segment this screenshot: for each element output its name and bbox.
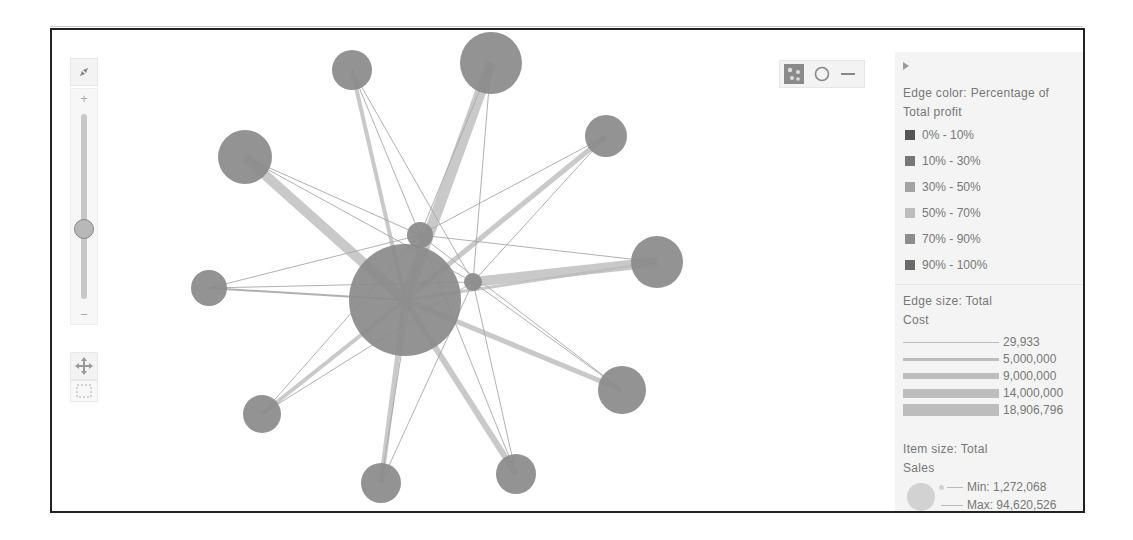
edge-color-item: 50% - 70% (905, 206, 981, 220)
graph-node[interactable] (243, 395, 281, 433)
layout-icon[interactable] (784, 64, 804, 84)
graph-node[interactable] (191, 270, 227, 306)
item-size-title: Item size: Total (903, 440, 988, 459)
size-bar (903, 358, 999, 361)
color-swatch (905, 208, 915, 218)
mode-toolbar (779, 60, 865, 88)
size-bar (903, 342, 999, 343)
zoom-slider[interactable]: + − (70, 88, 98, 325)
min-size-circle (939, 485, 944, 490)
graph-node[interactable] (585, 115, 627, 157)
graph-node[interactable] (349, 244, 461, 356)
fit-to-screen-button[interactable] (70, 58, 98, 86)
item-size-max: Max: 94,620,526 (967, 498, 1056, 512)
marquee-select-icon (71, 381, 97, 401)
size-bar (903, 404, 999, 416)
network-viewer: Edge color: Percentage of Total profit 0… (50, 28, 1085, 513)
graph-node[interactable] (361, 463, 401, 503)
zoom-out-button[interactable]: − (71, 307, 97, 322)
edge-size-title: Edge size: Total (903, 292, 992, 311)
size-bar (903, 389, 999, 398)
graph-node[interactable] (496, 454, 536, 494)
edge-color-item: 90% - 100% (905, 258, 987, 272)
marquee-select-button[interactable] (70, 380, 98, 402)
edge-color-title: Edge color: Percentage of (903, 84, 1049, 103)
top-rule (50, 26, 1083, 27)
edge-size-item: 18,906,796 (903, 402, 1063, 418)
color-swatch (905, 182, 915, 192)
graph-edge[interactable] (473, 262, 657, 282)
fit-to-screen-icon (71, 59, 97, 85)
graph-edge[interactable] (245, 157, 420, 235)
circle-icon[interactable] (812, 64, 832, 84)
graph-node[interactable] (332, 50, 372, 90)
item-size-min: Min: 1,272,068 (967, 480, 1046, 494)
line-icon[interactable] (838, 64, 858, 84)
graph-node[interactable] (218, 130, 272, 184)
size-bar (903, 373, 999, 379)
graph-node[interactable] (464, 273, 482, 291)
min-leader-line (947, 487, 963, 488)
graph-node[interactable] (598, 366, 646, 414)
max-size-circle (907, 483, 935, 511)
triangle-right-icon[interactable] (903, 62, 909, 70)
color-swatch (905, 156, 915, 166)
zoom-in-button[interactable]: + (71, 91, 97, 106)
edge-size-item: 14,000,000 (903, 385, 1063, 401)
graph-node[interactable] (460, 32, 522, 94)
edge-size-item: 5,000,000 (903, 351, 1056, 367)
color-swatch (905, 234, 915, 244)
zoom-thumb[interactable] (74, 219, 94, 239)
edge-color-item: 30% - 50% (905, 180, 981, 194)
graph-node[interactable] (631, 236, 683, 288)
legend-panel: Edge color: Percentage of Total profit 0… (895, 52, 1083, 511)
legend-divider (895, 284, 1083, 285)
pan-icon (71, 353, 97, 379)
pan-button[interactable] (70, 352, 98, 380)
edge-size-title-2: Cost (903, 311, 929, 330)
graph-node[interactable] (407, 222, 433, 248)
max-leader-line (941, 505, 963, 506)
edge-color-title-2: Total profit (903, 103, 962, 122)
color-swatch (905, 130, 915, 140)
zoom-track[interactable] (81, 114, 87, 299)
edge-size-item: 9,000,000 (903, 368, 1056, 384)
color-swatch (905, 260, 915, 270)
item-size-title-2: Sales (903, 459, 935, 478)
edge-size-item: 29,933 (903, 334, 1040, 350)
edge-color-item: 10% - 30% (905, 154, 981, 168)
graph-edge[interactable] (473, 136, 606, 282)
edge-color-item: 0% - 10% (905, 128, 974, 142)
edge-color-item: 70% - 90% (905, 232, 981, 246)
